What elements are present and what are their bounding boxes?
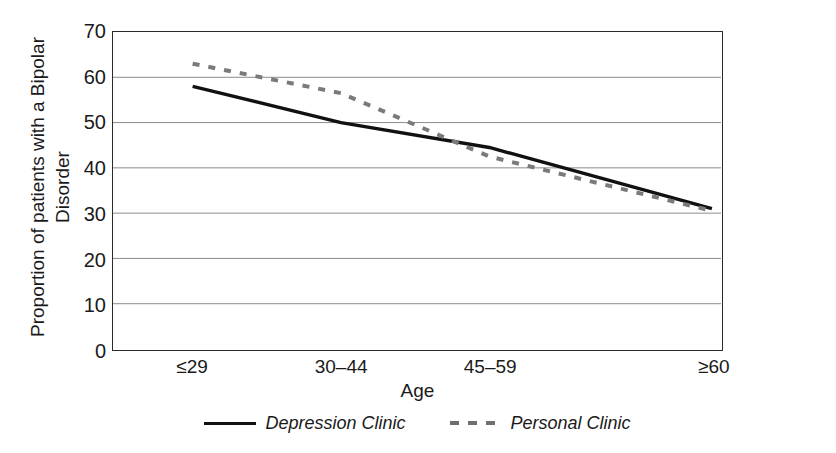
y-axis-tick-label: 50 (62, 112, 106, 132)
legend-label-personal-clinic: Personal Clinic (511, 413, 631, 434)
y-axis-tick-label: 60 (62, 67, 106, 87)
legend-solid-line-icon (204, 422, 256, 425)
plot-area (112, 31, 723, 351)
y-axis-tick-labels: 010203040506070 (58, 0, 106, 453)
plot-svg (113, 32, 721, 349)
y-axis-tick-label: 70 (62, 21, 106, 41)
chart-legend: Depression Clinic Personal Clinic (112, 408, 723, 438)
y-axis-tick-label: 10 (62, 295, 106, 315)
y-axis-tick-label: 40 (62, 158, 106, 178)
series-line-1 (193, 86, 712, 208)
y-axis-title-line1: Proportion of patients with a Bipolar (27, 37, 48, 337)
legend-item-personal-clinic: Personal Clinic (450, 413, 631, 434)
x-axis-title: Age (112, 380, 723, 402)
x-axis-tick-label: 45–59 (464, 356, 517, 378)
legend-label-depression-clinic: Depression Clinic (265, 413, 405, 434)
x-axis-tick-label: 30–44 (315, 356, 368, 378)
x-axis-tick-label: ≤29 (176, 356, 208, 378)
x-axis-tick-label: ≥60 (698, 356, 730, 378)
y-axis-tick-label: 20 (62, 250, 106, 270)
y-axis-tick-label: 0 (62, 341, 106, 361)
legend-dashed-line-icon (450, 421, 502, 425)
x-axis-tick-labels: ≤2930–4445–59≥60 (112, 356, 723, 382)
y-axis-tick-label: 30 (62, 204, 106, 224)
legend-item-depression-clinic: Depression Clinic (204, 413, 405, 434)
chart-figure: Proportion of patients with a Bipolar Di… (0, 0, 836, 453)
